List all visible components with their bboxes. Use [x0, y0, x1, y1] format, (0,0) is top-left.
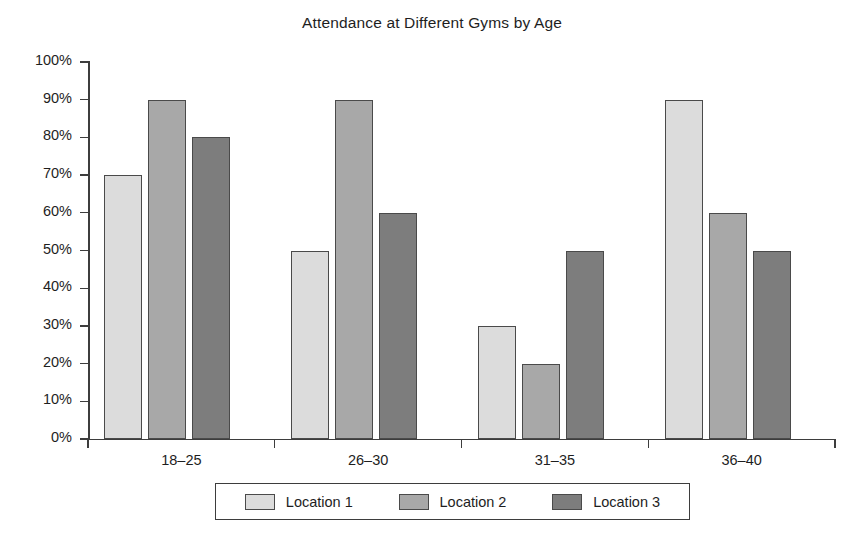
- x-axis-tick: [87, 439, 88, 448]
- x-axis-category-label: 26–30: [275, 452, 462, 468]
- bar: [291, 251, 329, 440]
- x-axis-tick: [461, 439, 462, 448]
- bar: [753, 251, 791, 440]
- bar: [478, 326, 516, 439]
- x-axis-tick: [834, 439, 835, 448]
- legend-item[interactable]: Location 2: [399, 494, 507, 510]
- legend-label: Location 1: [286, 494, 353, 510]
- chart-legend: Location 1Location 2Location 3: [215, 483, 690, 520]
- x-axis-category-label: 31–35: [462, 452, 649, 468]
- bar: [335, 100, 373, 439]
- x-axis-tick: [274, 439, 275, 448]
- bar: [148, 100, 186, 439]
- x-axis-category-label: 18–25: [88, 452, 275, 468]
- bars-layer: [0, 0, 864, 439]
- x-axis-category-label: 36–40: [648, 452, 835, 468]
- legend-swatch-icon: [552, 494, 582, 510]
- bar: [104, 175, 142, 439]
- bar: [709, 213, 747, 439]
- legend-label: Location 2: [440, 494, 507, 510]
- bar: [566, 251, 604, 440]
- bar-chart: Attendance at Different Gyms by Age 0%10…: [0, 0, 864, 553]
- bar: [522, 364, 560, 439]
- legend-swatch-icon: [245, 494, 275, 510]
- bar: [379, 213, 417, 439]
- bar: [665, 100, 703, 439]
- legend-label: Location 3: [593, 494, 660, 510]
- legend-swatch-icon: [399, 494, 429, 510]
- x-axis-tick: [648, 439, 649, 448]
- bar: [192, 137, 230, 439]
- legend-item[interactable]: Location 3: [552, 494, 660, 510]
- legend-item[interactable]: Location 1: [245, 494, 353, 510]
